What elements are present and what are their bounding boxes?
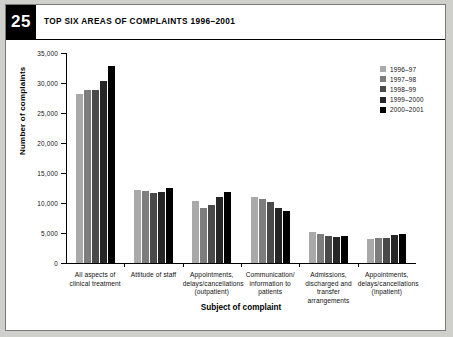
y-axis-tick-label: 0	[54, 260, 58, 267]
figure-header: 25 TOP SIX AREAS OF COMPLAINTS 1996–2001	[6, 5, 445, 39]
figure-number: 25	[6, 5, 36, 39]
bar	[383, 238, 390, 263]
bar	[267, 202, 274, 263]
y-axis-title: Number of complaints	[18, 67, 27, 155]
x-axis-category-label: Admissions, discharged and transfer arra…	[299, 271, 357, 305]
y-axis-tick	[61, 53, 66, 54]
legend-item: 1998–99	[380, 85, 424, 93]
x-axis-title: Subject of complaint	[66, 303, 416, 312]
x-axis-category-label: Attitude of staff	[124, 271, 182, 280]
y-axis-tick-label: 30,000	[37, 80, 58, 87]
y-axis-tick-label: 5,000	[41, 230, 58, 237]
y-axis-tick-label: 15,000	[37, 170, 58, 177]
legend-item: 1997–98	[380, 75, 424, 83]
bar	[275, 208, 282, 263]
bar	[317, 234, 324, 263]
y-axis-line	[66, 53, 67, 263]
legend-label: 1999–2000	[390, 96, 424, 103]
bar	[150, 193, 157, 263]
x-axis-tick	[358, 263, 359, 267]
legend-item: 1996–97	[380, 65, 424, 73]
bar	[224, 192, 231, 263]
bar	[216, 197, 223, 263]
bar	[158, 192, 165, 263]
y-axis-tick-label: 35,000	[37, 50, 58, 57]
bar	[200, 208, 207, 263]
bar	[251, 197, 258, 263]
bar	[142, 191, 149, 263]
plot-area: 05,00010,00015,00020,00025,00030,00035,0…	[66, 53, 416, 263]
bar	[166, 188, 173, 263]
header-divider	[6, 39, 445, 40]
y-axis-tick-label: 10,000	[37, 200, 58, 207]
legend-swatch	[380, 66, 386, 72]
bar	[208, 205, 215, 263]
y-axis-tick-label: 25,000	[37, 110, 58, 117]
x-axis-category-label: Communication/ information to patients	[241, 271, 299, 297]
bar-group	[76, 53, 115, 263]
y-axis-tick	[61, 233, 66, 234]
y-axis-tick	[61, 263, 66, 264]
x-axis-tick	[124, 263, 125, 267]
legend-swatch	[380, 86, 386, 92]
x-axis-tick	[183, 263, 184, 267]
bar-group	[134, 53, 173, 263]
bar	[92, 90, 99, 263]
legend-swatch	[380, 97, 386, 103]
legend-label: 2000–2001	[390, 106, 424, 113]
legend-label: 1996–97	[390, 66, 416, 73]
y-axis-tick-label: 20,000	[37, 140, 58, 147]
bar	[134, 190, 141, 263]
bar	[333, 237, 340, 263]
x-axis-category-label: Appointments, delays/cancellations (inpa…	[358, 271, 416, 297]
bar	[309, 232, 316, 263]
chart-legend: 1996–971997–981998–991999–20002000–2001	[380, 65, 424, 116]
bar	[391, 235, 398, 263]
bar	[76, 94, 83, 263]
figure-title: TOP SIX AREAS OF COMPLAINTS 1996–2001	[44, 16, 235, 26]
x-axis-category-label: All aspects of clinical treatment	[66, 271, 124, 288]
legend-label: 1998–99	[390, 86, 416, 93]
bar	[325, 236, 332, 263]
bar	[399, 234, 406, 263]
bar	[367, 239, 374, 263]
bar	[283, 211, 290, 263]
legend-item: 2000–2001	[380, 106, 424, 114]
y-axis-tick	[61, 113, 66, 114]
y-axis-tick	[61, 203, 66, 204]
bar	[259, 199, 266, 263]
bar-group	[309, 53, 348, 263]
bar-group	[192, 53, 231, 263]
y-axis-tick	[61, 143, 66, 144]
bar	[84, 90, 91, 263]
x-axis-tick	[299, 263, 300, 267]
bar	[192, 201, 199, 263]
y-axis-tick	[61, 83, 66, 84]
x-axis-category-label: Appointments, delays/cancellations (outp…	[183, 271, 241, 297]
bar	[341, 236, 348, 263]
legend-swatch	[380, 107, 386, 113]
legend-swatch	[380, 76, 386, 82]
x-axis-tick	[241, 263, 242, 267]
bar	[375, 238, 382, 263]
legend-label: 1997–98	[390, 76, 416, 83]
bar	[100, 81, 107, 263]
bar-group	[251, 53, 290, 263]
legend-item: 1999–2000	[380, 96, 424, 104]
y-axis-tick	[61, 173, 66, 174]
figure-panel: 25 TOP SIX AREAS OF COMPLAINTS 1996–2001…	[5, 4, 446, 331]
bar	[108, 66, 115, 263]
